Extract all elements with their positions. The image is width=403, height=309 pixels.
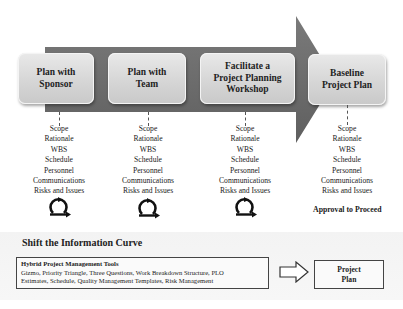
stage-label: Facilitate a Project Planning Workshop <box>213 61 281 96</box>
deliverable-item: Scope <box>205 124 285 134</box>
deliverable-item: Personnel <box>205 166 285 176</box>
deliverable-item: Communications <box>307 176 387 186</box>
iterate-cycle-icon <box>233 196 259 218</box>
stage-label: Plan with Sponsor <box>37 67 76 90</box>
deliverable-item: Schedule <box>205 155 285 165</box>
deliverable-item: Schedule <box>307 155 387 165</box>
iterate-cycle-icon <box>136 197 162 219</box>
stage-plan-with-team: Plan with Team <box>108 53 186 104</box>
tools-box-title: Hybrid Project Management Tools <box>21 260 264 269</box>
hybrid-tools-box: Hybrid Project Management Tools Gizmo, P… <box>16 257 269 289</box>
tools-box-line: Gizmo, Priority Triangle, Three Question… <box>21 269 264 278</box>
stage-label: Plan with Team <box>128 67 167 90</box>
project-plan-label: Project Plan <box>337 265 360 285</box>
deliverable-item: WBS <box>205 145 285 155</box>
deliverable-item: WBS <box>19 145 99 155</box>
stage-facilitate-workshop: Facilitate a Project Planning Workshop <box>200 53 295 104</box>
section-title: Shift the Information Curve <box>22 237 142 248</box>
connector-line <box>347 105 348 125</box>
deliverable-item: Schedule <box>108 155 188 165</box>
deliverable-item: Scope <box>307 124 387 134</box>
deliverable-item: Rationale <box>205 134 285 144</box>
stage-label: Baseline Project Plan <box>322 68 372 91</box>
deliverable-item: Scope <box>108 124 188 134</box>
iterate-cycle-icon <box>47 196 73 218</box>
deliverables-list-workshop: Scope Rationale WBS Schedule Personnel C… <box>205 124 285 197</box>
deliverables-list-baseline: Scope Rationale WBS Schedule Personnel C… <box>307 124 387 197</box>
project-plan-box: Project Plan <box>314 260 384 289</box>
hollow-right-arrow-icon <box>279 261 309 283</box>
deliverable-item: Rationale <box>108 134 188 144</box>
tools-box-line: Estimates, Schedule, Quality Management … <box>21 277 264 286</box>
deliverable-item: Rationale <box>19 134 99 144</box>
deliverable-item: Risks and Issues <box>307 186 387 196</box>
stage-baseline-project-plan: Baseline Project Plan <box>308 54 386 105</box>
deliverable-item: Communications <box>19 176 99 186</box>
deliverable-item: WBS <box>307 145 387 155</box>
deliverable-item: Communications <box>108 176 188 186</box>
stage-plan-with-sponsor: Plan with Sponsor <box>18 53 94 104</box>
deliverable-item: Personnel <box>19 166 99 176</box>
deliverables-list-team: Scope Rationale WBS Schedule Personnel C… <box>108 124 188 197</box>
deliverable-item: Scope <box>19 124 99 134</box>
deliverable-item: Rationale <box>307 134 387 144</box>
deliverable-item: Risks and Issues <box>108 186 188 196</box>
deliverable-item: WBS <box>108 145 188 155</box>
deliverable-item: Personnel <box>307 166 387 176</box>
deliverables-list-sponsor: Scope Rationale WBS Schedule Personnel C… <box>19 124 99 197</box>
deliverable-item: Communications <box>205 176 285 186</box>
approval-to-proceed-label: Approval to Proceed <box>313 205 382 214</box>
deliverable-item: Personnel <box>108 166 188 176</box>
deliverable-item: Schedule <box>19 155 99 165</box>
